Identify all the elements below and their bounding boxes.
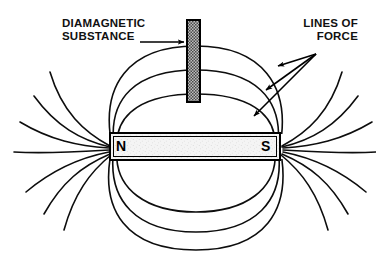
field-line-left-3 [20,122,109,148]
pointer-arrows [140,42,316,116]
field-line-left-4 [14,150,109,153]
field-line-left-5 [26,152,109,192]
diamagnetic-rod [187,20,200,102]
field-line-right-5 [283,152,366,192]
south-pole-label: S [261,138,270,154]
field-line-right-1 [282,72,342,146]
diamagnetic-substance-label: DIAMAGNETIC SUBSTANCE [62,17,145,43]
north-pole-label: N [116,138,126,154]
field-line-left-1 [50,72,110,146]
diamagnetic-rod-body [187,20,200,102]
field-line-right-6 [282,154,348,214]
figure-canvas: DIAMAGNETIC SUBSTANCE LINES OF FORCE N S [0,0,376,257]
lines-of-force-pointer-arrow-2 [266,54,316,90]
field-lines-left-open [14,72,111,230]
field-line-left-6 [44,154,110,214]
field-lines-right-open [281,72,376,230]
field-loop-below-outer [109,148,283,250]
field-line-right-3 [283,122,372,148]
field-line-right-4 [283,150,376,153]
bar-magnet [110,133,280,160]
bar-magnet-body [110,133,280,160]
lines-of-force-label: LINES OF FORCE [262,17,358,43]
field-loops-below [109,148,283,250]
